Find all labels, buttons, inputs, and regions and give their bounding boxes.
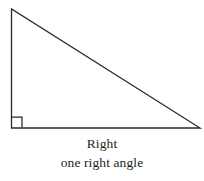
triangle-outline — [12, 9, 201, 128]
right-angle-marker-path — [12, 117, 22, 127]
caption-title: Right — [0, 134, 204, 153]
caption-description: one right angle — [0, 153, 204, 172]
right-angle-square-icon — [12, 117, 22, 127]
figure-caption: Right one right angle — [0, 134, 204, 172]
triangle-path — [12, 9, 201, 128]
figure-canvas: Right one right angle — [0, 0, 204, 181]
